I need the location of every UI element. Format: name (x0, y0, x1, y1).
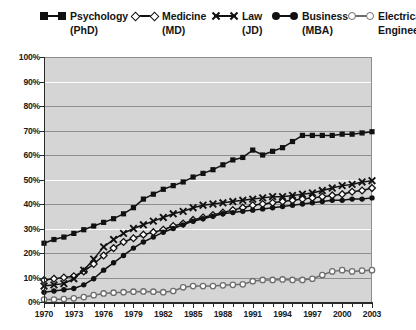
x-tick-mark (44, 303, 45, 308)
y-tick-label: 60% (6, 150, 40, 160)
y-tick-label: 90% (6, 77, 40, 87)
x-tick-mark (302, 303, 303, 307)
x-tick-mark (342, 303, 343, 308)
x-tick-mark (94, 303, 95, 307)
y-tick-mark (40, 155, 44, 156)
x-tick-mark (352, 303, 353, 307)
legend-item-label: Law (242, 10, 262, 22)
x-tick-mark (312, 303, 313, 308)
y-tick-mark (40, 82, 44, 83)
x-tick-label: 1970 (35, 309, 53, 319)
x-tick-mark (153, 303, 154, 307)
y-axis-line (44, 57, 45, 303)
x-tick-mark (114, 303, 115, 307)
legend-item-sublabel: (MD) (162, 24, 206, 36)
chart-screenshot: Psychology(PhD)Medicine(MD)Law(JD)Busine… (0, 0, 416, 330)
y-tick-label: 30% (6, 224, 40, 234)
legend-item-electrical[interactable]: ElectricalEngineering* (348, 8, 416, 36)
x-tick-mark (104, 303, 105, 308)
legend-item-label: Business (302, 10, 348, 22)
x-tick-label: 1976 (94, 309, 112, 319)
y-tick-label: 20% (6, 248, 40, 258)
x-tick-mark (193, 303, 194, 308)
legend-item-label: Electrical (378, 10, 416, 22)
x-tick-mark (322, 303, 323, 307)
x-tick-mark (163, 303, 164, 308)
x-tick-label: 1973 (65, 309, 83, 319)
y-tick-mark (40, 106, 44, 107)
legend-item-sublabel: (PhD) (70, 24, 128, 36)
legend-item-sublabel: Engineering* (378, 24, 416, 36)
open-diamond-icon (132, 10, 158, 22)
y-tick-label: 0% (6, 297, 40, 307)
legend-item-business[interactable]: Business(MBA) (272, 8, 348, 36)
y-tick-mark (40, 204, 44, 205)
chart-area: 100%90%80%70%60%50%40%30%20%10%0% 197019… (0, 50, 416, 330)
x-tick-mark (74, 303, 75, 308)
legend-item-medicine[interactable]: Medicine(MD) (132, 8, 206, 36)
x-tick-mark (124, 303, 125, 307)
y-tick-mark (40, 180, 44, 181)
x-tick-mark (223, 303, 224, 308)
x-tick-mark (283, 303, 284, 308)
x-tick-mark (173, 303, 174, 307)
series-layer (44, 57, 372, 302)
open-circle-icon (348, 10, 374, 22)
x-tick-mark (143, 303, 144, 307)
x-tick-mark (203, 303, 204, 307)
x-tick-label: 1991 (244, 309, 262, 319)
y-tick-label: 70% (6, 126, 40, 136)
x-tick-mark (183, 303, 184, 307)
x-tick-label: 1982 (154, 309, 172, 319)
x-tick-mark (243, 303, 244, 307)
y-tick-mark (40, 229, 44, 230)
x-tick-label: 1979 (124, 309, 142, 319)
y-tick-label: 10% (6, 273, 40, 283)
y-tick-label: 80% (6, 101, 40, 111)
y-tick-mark (40, 131, 44, 132)
plot-background (44, 57, 372, 302)
x-tick-mark (253, 303, 254, 308)
series-law (41, 177, 376, 289)
x-tick-mark (292, 303, 293, 307)
y-tick-label: 40% (6, 199, 40, 209)
x-tick-mark (362, 303, 363, 307)
legend-item-law[interactable]: Law(JD) (212, 8, 262, 36)
chart-legend: Psychology(PhD)Medicine(MD)Law(JD)Busine… (0, 8, 416, 46)
filled-square-icon (40, 10, 66, 22)
x-tick-label: 1985 (184, 309, 202, 319)
series-business (41, 195, 374, 295)
x-tick-label: 1997 (303, 309, 321, 319)
filled-circle-icon (272, 10, 298, 22)
x-tick-mark (332, 303, 333, 307)
x-tick-mark (54, 303, 55, 307)
y-axis-labels: 100%90%80%70%60%50%40%30%20%10%0% (0, 50, 40, 310)
series-medicine (41, 185, 376, 284)
y-tick-label: 50% (6, 175, 40, 185)
x-tick-mark (213, 303, 214, 307)
y-tick-label: 100% (6, 52, 40, 62)
x-tick-mark (64, 303, 65, 307)
legend-item-label: Medicine (162, 10, 206, 22)
x-tick-mark (133, 303, 134, 308)
x-tick-label: 2000 (333, 309, 351, 319)
y-tick-mark (40, 278, 44, 279)
x-tick-mark (273, 303, 274, 307)
series-electrical (41, 267, 374, 302)
legend-item-label: Psychology (70, 10, 128, 22)
legend-item-sublabel: (JD) (242, 24, 262, 36)
x-tick-label: 2003 (363, 309, 381, 319)
legend-item-sublabel: (MBA) (302, 24, 348, 36)
y-tick-mark (40, 57, 44, 58)
y-tick-mark (40, 253, 44, 254)
x-tick-label: 1988 (214, 309, 232, 319)
x-tick-mark (372, 303, 373, 308)
x-tick-mark (233, 303, 234, 307)
x-cross-icon (212, 10, 238, 22)
x-tick-label: 1994 (273, 309, 291, 319)
legend-item-psychology[interactable]: Psychology(PhD) (40, 8, 128, 36)
x-tick-mark (84, 303, 85, 307)
x-tick-mark (263, 303, 264, 307)
